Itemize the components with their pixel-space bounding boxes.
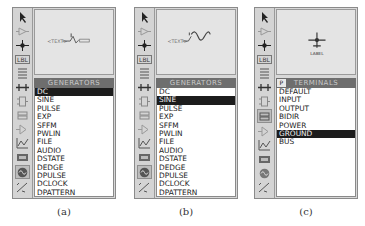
arrow-cursor-icon [258,12,271,23]
text-script-button[interactable] [257,67,272,79]
graph-icon [138,138,151,149]
tape-icon [258,154,271,165]
probe-icon [16,182,29,193]
buses-button[interactable] [15,81,30,93]
junction-dot-icon [16,40,29,51]
device-pins-button[interactable] [15,123,30,135]
wire-label-icon: LBL [137,55,152,64]
panel-b: LBL <TEXT> GENERATORS DC SINE PULSE EXP … [134,7,238,199]
junction-dot-icon [258,40,271,51]
list-item[interactable]: BUS [277,138,355,146]
list-item[interactable]: DPATTERN [157,189,235,197]
wire-label-button[interactable]: LBL [257,53,272,65]
generator-list[interactable]: DC SINE PULSE EXP SFFM PWLIN FILE AUDIO … [34,88,114,197]
subcircuit-icon [16,96,29,107]
caption-b: (b) [171,206,201,217]
list-item[interactable]: DPATTERN [35,189,113,197]
graph-button[interactable] [137,137,152,149]
text-script-icon [138,68,151,79]
probe-icon [138,182,151,193]
list-header-title: TERMINALS [294,79,339,87]
graph-button[interactable] [15,137,30,149]
junction-dot-button[interactable] [257,39,272,51]
subcircuit-button[interactable] [257,95,272,107]
component-preview: LABEL [276,9,356,75]
selection-mode-button[interactable] [137,11,152,23]
terminals-mode-button[interactable] [257,109,272,123]
terminal-list[interactable]: DEFAULT INPUT OUTPUT BIDIR POWER GROUND … [276,88,356,197]
component-preview: <TEXT> [156,9,236,75]
device-pins-button[interactable] [137,123,152,135]
subcircuit-button[interactable] [15,95,30,107]
wire-label-button[interactable]: LBL [137,53,152,65]
dc-generator-icon: <TEXT> [35,10,113,74]
component-icon [258,26,271,37]
device-pin-icon [138,124,151,135]
mode-toolbar: LBL [135,8,155,198]
junction-dot-button[interactable] [137,39,152,51]
component-mode-button[interactable] [15,25,30,37]
selection-mode-button[interactable] [257,11,272,23]
caption-a: (a) [49,206,79,217]
subcircuit-icon [138,96,151,107]
text-script-button[interactable] [15,67,30,79]
component-icon [138,26,151,37]
selection-mode-button[interactable] [15,11,30,23]
arrow-cursor-icon [16,12,29,23]
sine-generator-icon: <TEXT> [157,10,235,74]
voltage-probe-button[interactable] [15,181,30,193]
terminals-icon [138,110,151,121]
component-mode-button[interactable] [137,25,152,37]
junction-dot-icon [138,40,151,51]
text-script-button[interactable] [137,67,152,79]
graph-icon [258,140,271,151]
generator-icon [138,167,151,178]
panel-a: LBL <TEXT> GENERATORS DC SINE PULSE EXP … [12,7,116,199]
voltage-probe-button[interactable] [257,181,272,193]
wire-label-icon: LBL [15,55,30,64]
component-preview: <TEXT> [34,9,114,75]
buses-button[interactable] [257,81,272,93]
probe-icon [258,182,271,193]
ground-terminal-icon: LABEL [277,10,355,74]
mode-toolbar: LBL [255,8,275,198]
text-script-icon [258,68,271,79]
device-pin-icon [16,124,29,135]
device-pins-button[interactable] [257,125,272,137]
subcircuit-button[interactable] [137,95,152,107]
component-mode-button[interactable] [257,25,272,37]
generator-mode-button[interactable] [15,165,30,179]
graph-icon [16,138,29,149]
wire-label-button[interactable]: LBL [15,53,30,65]
generator-icon [16,167,29,178]
tape-icon [138,152,151,163]
terminals-button[interactable] [137,109,152,121]
voltage-probe-button[interactable] [137,181,152,193]
tape-icon [16,152,29,163]
bus-icon [16,82,29,93]
buses-button[interactable] [137,81,152,93]
generator-list[interactable]: DC SINE PULSE EXP SFFM PWLIN FILE AUDIO … [156,88,236,197]
preview-label: LABEL [310,51,324,56]
panel-c: LBL LABEL P TERMINALS DEFAULT INPUT OUTP… [254,7,358,199]
bus-icon [138,82,151,93]
mode-toolbar: LBL [13,8,33,198]
tape-recorder-button[interactable] [15,151,30,163]
wire-label-icon: LBL [257,55,272,64]
text-script-icon [16,68,29,79]
terminals-icon [258,111,271,122]
junction-dot-button[interactable] [15,39,30,51]
generator-mode-button[interactable] [257,167,272,179]
pick-button[interactable]: P [277,79,286,87]
arrow-cursor-icon [138,12,151,23]
tape-recorder-button[interactable] [257,153,272,165]
terminals-button[interactable] [15,109,30,121]
graph-button[interactable] [257,139,272,151]
generator-mode-button[interactable] [137,165,152,179]
subcircuit-icon [258,96,271,107]
caption-c: (c) [291,206,321,217]
bus-icon [258,82,271,93]
tape-recorder-button[interactable] [137,151,152,163]
device-pin-icon [258,126,271,137]
component-icon [16,26,29,37]
